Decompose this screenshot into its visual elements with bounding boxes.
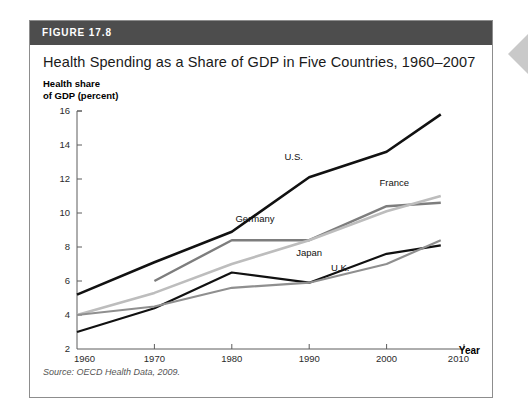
y-tick-label: 16 — [59, 105, 70, 116]
chart-tick-labels: 246810121416196019701980199020002010 — [59, 105, 469, 364]
x-tick-label: 1960 — [74, 353, 95, 364]
x-axis-title: Year — [459, 345, 480, 356]
y-tick-label: 8 — [65, 241, 70, 252]
y-tick-label: 4 — [65, 309, 70, 320]
y-tick-label: 10 — [59, 207, 70, 218]
x-tick-label: 1980 — [221, 353, 242, 364]
x-tick-label: 1970 — [144, 353, 165, 364]
y-tick-label: 2 — [65, 343, 70, 354]
series-label-japan: Japan — [296, 247, 322, 258]
series-label-uk: U.K. — [331, 262, 349, 273]
y-tick-label: 12 — [59, 173, 70, 184]
series-line-japan — [77, 245, 441, 332]
figure-card: FIGURE 17.8 Health Spending as a Share o… — [29, 20, 493, 398]
series-label-us: U.S. — [284, 151, 302, 162]
series-label-france: France — [380, 177, 410, 188]
x-tick-label: 1990 — [299, 353, 320, 364]
line-chart-plot: 246810121416196019701980199020002010 U.S… — [30, 21, 494, 399]
series-line-uk — [77, 240, 441, 315]
y-tick-label: 14 — [59, 139, 70, 150]
y-tick-label: 6 — [65, 275, 70, 286]
series-line-us — [77, 114, 441, 294]
series-line-germany — [154, 203, 440, 281]
source-note: Source: OECD Health Data, 2009. — [43, 367, 180, 377]
series-label-germany: Germany — [235, 213, 274, 224]
x-tick-label: 2000 — [376, 353, 397, 364]
